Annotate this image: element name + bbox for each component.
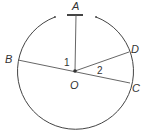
gap-end-left: [54, 16, 56, 18]
center-point-o: [73, 69, 77, 73]
label-c: C: [132, 83, 140, 94]
diagram-canvas: [0, 0, 143, 135]
segment-oa: [75, 15, 76, 71]
angle-1-label: 1: [64, 58, 70, 68]
label-d: D: [131, 44, 139, 55]
label-o: O: [70, 80, 79, 91]
label-a: A: [72, 1, 79, 12]
angle-2-label: 2: [97, 66, 103, 76]
gap-end-right: [95, 16, 97, 18]
label-b: B: [5, 54, 12, 65]
circle-diagram: A B C D O 1 2: [0, 0, 143, 135]
